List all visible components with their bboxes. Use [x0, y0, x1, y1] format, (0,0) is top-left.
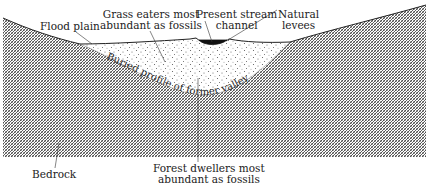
label-forest-dwellers-line2: abundant as fossils [153, 174, 265, 185]
label-bedrock: Bedrock [32, 169, 76, 180]
label-natural-levees-line2: levees [278, 20, 319, 31]
leader-flood-plain [76, 32, 92, 44]
label-grass-eaters: Grass eaters most abundant as fossils [100, 9, 202, 31]
label-bedrock-text: Bedrock [32, 169, 76, 180]
label-flood-plain-text: Flood plain [40, 21, 100, 32]
label-grass-eaters-line2: abundant as fossils [100, 20, 202, 31]
label-present-stream-line2: channel [196, 20, 277, 31]
label-forest-dwellers: Forest dwellers most abundant as fossils [153, 163, 265, 185]
label-flood-plain: Flood plain [40, 21, 100, 32]
label-present-stream: Present stream channel [196, 9, 277, 31]
label-natural-levees: Natural levees [278, 9, 319, 31]
